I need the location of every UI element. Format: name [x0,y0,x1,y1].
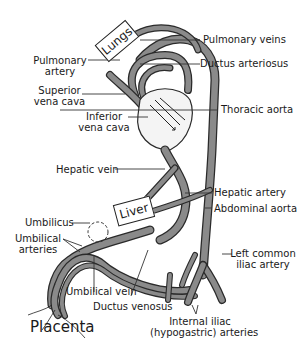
label-ductus-venosus: Ductus venosus [93,301,172,312]
label-superior-vena-cava: Superior vena cava [32,85,87,107]
fetal-circulation-diagram: Lungs Liver Placenta Pulmonary veins Pul… [0,0,307,355]
label-ductus-arteriosus: Ductus arteriosus [200,58,288,69]
label-umbilical-arteries: Umbilical arteries [12,233,64,255]
label-left-common-iliac: Left common iliac artery [228,248,298,270]
label-pulmonary-veins: Pulmonary veins [203,34,286,45]
placenta-label: Placenta [30,318,94,336]
label-abdominal-aorta: Abdominal aorta [214,203,297,214]
label-hepatic-vein: Hepatic vein [56,164,119,175]
umbilicus-marker [88,222,108,242]
label-umbilicus: Umbilicus [25,217,74,228]
label-hepatic-artery: Hepatic artery [214,187,286,198]
label-umbilical-vein: Umbilical vein [66,286,137,297]
label-pulmonary-artery: Pulmonary artery [30,55,90,77]
label-thoracic-aorta: Thoracic aorta [221,104,293,115]
inferior-vena-cava-vessel [160,150,186,240]
label-inferior-vena-cava: Inferior vena cava [78,111,130,133]
label-internal-iliac: Internal iliac (hypogastric) arteries [150,316,250,338]
liver-label: Liver [118,200,150,221]
